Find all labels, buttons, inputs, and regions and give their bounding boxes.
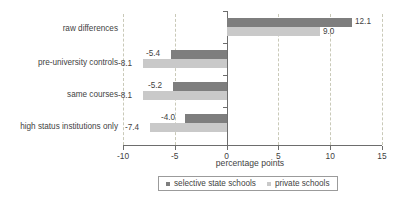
category-label: pre-university controls [0,58,118,67]
category-label: same courses [0,90,118,99]
x-axis-tick [227,146,228,150]
x-axis-tick [123,146,124,150]
x-axis: -10 -5 0 5 10 15 [123,145,382,146]
legend-swatch-icon [166,182,170,186]
gridline [382,14,383,145]
bar-value-label: -8.1 [118,91,132,100]
bar-selective-state-schools [171,50,227,59]
category-tick [223,11,227,12]
bar-value-label: 9.0 [323,27,334,36]
bar-selective-state-schools [227,18,352,27]
bar-private-schools [143,91,227,100]
bar-selective-state-schools [173,82,227,91]
gridline [123,14,124,145]
plot-area: 12.1 9.0 -5.4 -8.1 -5.2 -8.1 -4.0 -7.4 [123,14,382,145]
bar-private-schools [227,27,320,36]
bar-value-label: -5.4 [146,49,160,58]
bar-value-label: -4.0 [161,113,175,122]
x-axis-title-text: percentage points [216,158,284,168]
bar-value-label: 12.1 [355,17,371,26]
x-axis-title: percentage points [0,158,400,168]
category-tick [223,75,227,76]
category-label: high status institutions only [0,122,118,131]
bar-value-label: -8.1 [118,59,132,68]
bar-value-label: -5.2 [148,81,162,90]
bar-private-schools [143,59,227,68]
legend-label: private schools [275,179,330,188]
legend: selective state schools private schools [158,176,338,191]
category-tick [223,107,227,108]
legend-item-private-schools: private schools [267,179,330,188]
x-axis-tick [175,146,176,150]
bar-selective-state-schools [185,114,226,123]
legend-swatch-icon [267,182,271,186]
bar-value-label: -7.4 [125,123,139,132]
category-tick [223,43,227,44]
bar-chart: raw differences pre-university controls … [0,0,400,204]
x-axis-tick [330,146,331,150]
category-label: raw differences [0,24,118,33]
x-axis-tick [382,146,383,150]
legend-label: selective state schools [174,179,256,188]
legend-item-selective-state-schools: selective state schools [166,179,256,188]
bar-private-schools [150,123,227,132]
x-axis-tick [278,146,279,150]
